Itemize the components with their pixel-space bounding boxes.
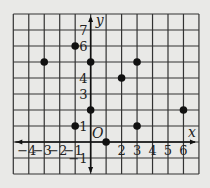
y-axis-down-arrow-icon [88, 167, 93, 173]
y-tick-label: 3 [79, 87, 87, 102]
data-point [133, 58, 141, 66]
data-point [71, 42, 79, 50]
data-point [40, 58, 48, 66]
y-tick-label: 4 [79, 71, 87, 86]
x-tick-label: 6 [179, 143, 187, 158]
data-point [133, 122, 141, 130]
data-point [87, 106, 95, 114]
origin-label: O [92, 125, 104, 141]
y-tick-label: −1 [68, 151, 87, 166]
x-tick-label: 3 [133, 143, 141, 158]
y-axis-label: y [95, 12, 105, 28]
y-tick-label: 7 [79, 23, 87, 38]
y-tick-label: 1 [79, 119, 87, 134]
data-point [118, 74, 126, 82]
coordinate-grid-chart: −4−3−2−123456−113467xyO [0, 0, 210, 188]
y-axis-arrow-icon [88, 16, 93, 22]
data-point [87, 58, 95, 66]
data-point [180, 106, 188, 114]
x-tick-label: 5 [164, 143, 172, 158]
data-point [71, 122, 79, 130]
x-tick-label: 4 [148, 143, 156, 158]
x-tick-label: 2 [117, 143, 125, 158]
data-point [102, 138, 110, 146]
x-axis-arrow-icon [190, 140, 196, 145]
y-tick-label: 6 [79, 39, 87, 54]
x-axis-label: x [188, 124, 196, 140]
